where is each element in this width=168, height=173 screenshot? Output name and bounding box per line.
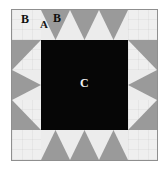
cell-r2c4-center xyxy=(99,40,128,70)
cell-r2c5-half-square-triangle xyxy=(128,40,157,70)
cell-r5c3-flying-geese xyxy=(70,130,99,160)
cell-r4c2-center xyxy=(41,100,70,130)
cell-r2c1-half-square-triangle xyxy=(12,40,41,70)
quilt-block-diagram: B A B C xyxy=(0,0,168,173)
triangle-gray xyxy=(12,100,41,130)
cell-r3c1-flying-geese xyxy=(12,70,41,100)
triangle-gray xyxy=(12,40,41,70)
cell-r5c2-flying-geese xyxy=(41,130,70,160)
cell-r2c2-center xyxy=(41,40,70,70)
cell-r3c4-center xyxy=(99,70,128,100)
label-piece-b-corner: B xyxy=(21,13,29,25)
triangle-gray xyxy=(128,100,157,130)
cell-r1c5-corner-square xyxy=(128,10,157,40)
label-piece-c-center: C xyxy=(80,77,89,89)
cell-r4c4-center xyxy=(99,100,128,130)
cell-r2c3-center xyxy=(70,40,99,70)
cell-r4c1-half-square-triangle xyxy=(12,100,41,130)
label-piece-a: A xyxy=(40,19,48,30)
fabric-tint xyxy=(12,130,41,160)
triangle-gray xyxy=(128,40,157,70)
cell-r5c5-corner-square xyxy=(128,130,157,160)
cell-r5c1-corner-square xyxy=(12,130,41,160)
cell-r5c4-flying-geese xyxy=(99,130,128,160)
cell-r3c2-center xyxy=(41,70,70,100)
fabric-tint xyxy=(128,10,157,40)
cell-r4c5-half-square-triangle xyxy=(128,100,157,130)
cell-r1c4-flying-geese xyxy=(99,10,128,40)
fabric-tint xyxy=(128,130,157,160)
cell-r4c3-center xyxy=(70,100,99,130)
cell-r1c3-flying-geese xyxy=(70,10,99,40)
cell-r3c5-flying-geese xyxy=(128,70,157,100)
label-piece-b-triangle: B xyxy=(53,12,61,24)
